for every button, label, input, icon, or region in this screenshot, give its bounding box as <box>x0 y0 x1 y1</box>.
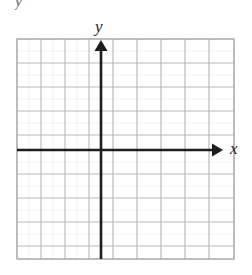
x-axis-label: x <box>230 140 238 157</box>
figure-canvas: y <box>0 0 252 275</box>
coordinate-plane <box>0 0 252 275</box>
y-axis-label: y <box>95 18 103 35</box>
